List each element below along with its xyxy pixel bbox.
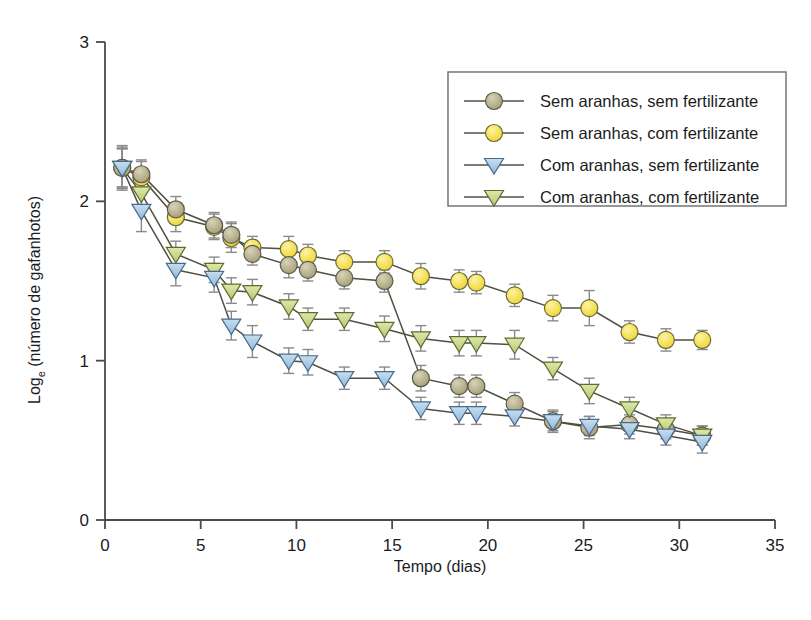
- data-point: [412, 268, 429, 285]
- legend-marker: [486, 125, 503, 142]
- data-point: [506, 287, 523, 304]
- data-point: [581, 300, 598, 317]
- data-point: [299, 261, 316, 278]
- legend-item-label: Com aranhas, sem fertilizante: [540, 156, 759, 174]
- chart-legend: Sem aranhas, sem fertilizanteSem aranhas…: [448, 72, 786, 206]
- data-point: [621, 323, 638, 340]
- x-tick-label: 20: [478, 536, 497, 555]
- x-tick-label: 0: [100, 536, 109, 555]
- data-point: [133, 166, 150, 183]
- data-point: [468, 378, 485, 395]
- data-point: [223, 226, 240, 243]
- x-tick-label: 5: [196, 536, 205, 555]
- data-point: [336, 269, 353, 286]
- data-point: [412, 370, 429, 387]
- y-axis-title-main: Log: [26, 377, 43, 404]
- data-point: [544, 300, 561, 317]
- data-point: [206, 217, 223, 234]
- grasshopper-decline-chart: 0123 05101520253035 Tempo (dias) Loge (n…: [0, 0, 811, 620]
- data-point: [451, 273, 468, 290]
- data-point: [376, 253, 393, 270]
- y-tick-label: 3: [80, 33, 89, 52]
- x-axis-title: Tempo (dias): [394, 558, 486, 575]
- y-axis-title-rest: (número de gafanhotos): [26, 196, 43, 371]
- data-point: [657, 331, 674, 348]
- legend-item-label: Com aranhas, com fertilizante: [540, 188, 759, 206]
- y-tick-label: 2: [80, 192, 89, 211]
- legend-item-label: Sem aranhas, com fertilizante: [540, 124, 758, 142]
- y-tick-label: 1: [80, 352, 89, 371]
- x-tick-label: 35: [766, 536, 785, 555]
- data-point: [280, 257, 297, 274]
- legend-marker: [486, 93, 503, 110]
- x-tick-label: 15: [383, 536, 402, 555]
- data-point: [451, 378, 468, 395]
- data-point: [694, 331, 711, 348]
- data-point: [336, 253, 353, 270]
- data-point: [376, 273, 393, 290]
- x-tick-label: 10: [287, 536, 306, 555]
- data-point: [167, 201, 184, 218]
- y-tick-label: 0: [80, 511, 89, 530]
- data-point: [468, 274, 485, 291]
- legend-item-label: Sem aranhas, sem fertilizante: [540, 92, 758, 110]
- data-point: [280, 241, 297, 258]
- data-point: [244, 245, 261, 262]
- x-tick-label: 30: [670, 536, 689, 555]
- x-tick-label: 25: [574, 536, 593, 555]
